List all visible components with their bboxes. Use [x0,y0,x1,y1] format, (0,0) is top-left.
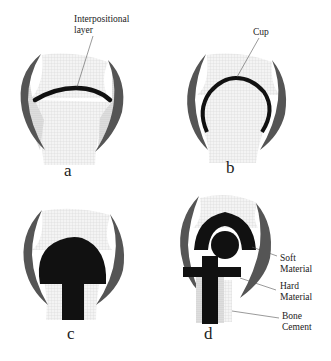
annotation-line: Cement [282,322,312,333]
annotation-cup: Cup [253,27,269,38]
panel-a-drawing [21,36,124,165]
annotation-line: Bone [282,311,312,322]
panel-label-b: b [226,159,235,176]
annotation-line: Interpositional [74,14,129,25]
annotation-soft-material: Soft Material [280,253,312,275]
annotation-interpositional-layer: Interpositional layer [74,14,129,36]
panel-label-c: c [67,325,75,342]
panel-b-drawing [187,38,286,163]
panel-label-a: a [64,162,72,179]
annotation-bone-cement: Bone Cement [282,311,312,333]
panel-label-d: d [204,325,213,342]
annotation-line: Material [280,292,312,303]
annotation-hard-material: Hard Material [280,281,312,303]
annotation-line: layer [74,25,129,36]
annotation-line: Cup [253,27,269,38]
panel-c-drawing [23,209,124,320]
joint-replacement-diagram [0,0,331,361]
annotation-line: Hard [280,281,312,292]
panel-d-drawing [180,195,279,324]
annotation-line: Soft [280,253,312,264]
annotation-line: Material [280,264,312,275]
